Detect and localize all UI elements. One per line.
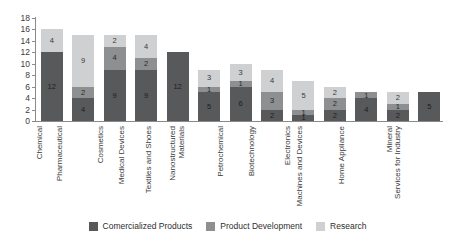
bar-segment[interactable]: 6 bbox=[230, 87, 252, 121]
bar-segment[interactable]: 4 bbox=[355, 98, 377, 121]
bar-segment[interactable]: 12 bbox=[41, 52, 63, 121]
bar-stack[interactable]: 513 bbox=[198, 70, 220, 121]
x-tick-label: Cosmetics bbox=[96, 126, 105, 163]
bar-segment[interactable]: 12 bbox=[167, 52, 189, 121]
bar-segment[interactable]: 3 bbox=[230, 64, 252, 81]
bar-segment[interactable]: 5 bbox=[292, 81, 314, 110]
bar-stack[interactable]: 234 bbox=[261, 70, 283, 121]
x-axis-category: Machines and Devices bbox=[319, 124, 350, 212]
bar-stack[interactable]: 924 bbox=[135, 35, 157, 121]
bar-stack[interactable]: 212 bbox=[387, 92, 409, 121]
bar-slot[interactable]: 41 bbox=[351, 18, 382, 121]
bar-segment[interactable]: 2 bbox=[261, 110, 283, 121]
bar-segment[interactable]: 9 bbox=[104, 70, 126, 122]
stacked-bar-chart: 024681012141618 124429942924125136132341… bbox=[0, 0, 455, 252]
bar-segment[interactable]: 5 bbox=[198, 92, 220, 121]
bar-slot[interactable]: 212 bbox=[382, 18, 413, 121]
bar-stack[interactable]: 124 bbox=[41, 29, 63, 121]
plot-area: 12442994292412513613234115222412125 bbox=[36, 18, 445, 121]
x-tick-label: Textiles and Shoes bbox=[144, 126, 153, 193]
y-tick-label: 0 bbox=[8, 117, 30, 126]
bar-stack[interactable]: 613 bbox=[230, 64, 252, 121]
y-tick-label: 10 bbox=[8, 60, 30, 69]
legend-label: Product Development bbox=[220, 222, 302, 231]
bar-segment[interactable]: 2 bbox=[387, 110, 409, 121]
bar-segment[interactable]: 4 bbox=[261, 70, 283, 93]
bar-stack[interactable]: 942 bbox=[104, 35, 126, 121]
bar-slot[interactable]: 5 bbox=[414, 18, 445, 121]
y-tick-label: 4 bbox=[8, 94, 30, 103]
x-tick-label: Petrochemical bbox=[215, 126, 224, 177]
chart-legend: Comercialized ProductsProduct Developmen… bbox=[0, 222, 455, 231]
x-axis-category: Services for Industry bbox=[414, 124, 445, 212]
legend-label: Comercialized Products bbox=[103, 222, 193, 231]
bar-series-group: 12442994292412513613234115222412125 bbox=[36, 18, 445, 121]
bar-segment[interactable]: 1 bbox=[292, 115, 314, 121]
bar-segment[interactable]: 2 bbox=[324, 110, 346, 121]
x-tick-label: Services for Industry bbox=[393, 126, 402, 199]
x-tick-label: Medical Devices bbox=[117, 126, 126, 184]
x-axis-line bbox=[35, 121, 443, 122]
y-tick-label: 18 bbox=[8, 14, 30, 23]
bar-segment[interactable]: 4 bbox=[72, 98, 94, 121]
y-tick-label: 2 bbox=[8, 106, 30, 115]
bar-slot[interactable]: 942 bbox=[99, 18, 130, 121]
y-tick-label: 6 bbox=[8, 83, 30, 92]
bar-segment[interactable]: 3 bbox=[198, 70, 220, 87]
x-tick-label: Machines and Devices bbox=[295, 126, 304, 206]
bar-slot[interactable]: 924 bbox=[130, 18, 161, 121]
bar-segment[interactable]: 4 bbox=[41, 29, 63, 52]
legend-label: Research bbox=[330, 222, 366, 231]
bar-slot[interactable]: 115 bbox=[288, 18, 319, 121]
bar-stack[interactable]: 12 bbox=[167, 52, 189, 121]
bar-slot[interactable]: 429 bbox=[67, 18, 98, 121]
legend-swatch-icon bbox=[206, 222, 215, 231]
bar-segment[interactable]: 4 bbox=[104, 47, 126, 70]
x-axis-category: Home Appliance bbox=[351, 124, 382, 212]
bar-segment[interactable]: 2 bbox=[387, 92, 409, 103]
x-tick-label: Nanostructured Materials bbox=[168, 126, 186, 208]
y-tick-label: 16 bbox=[8, 25, 30, 34]
bar-segment[interactable]: 2 bbox=[104, 35, 126, 46]
legend-swatch-icon bbox=[89, 222, 98, 231]
bar-slot[interactable]: 513 bbox=[193, 18, 224, 121]
bar-slot[interactable]: 124 bbox=[36, 18, 67, 121]
bar-segment[interactable]: 5 bbox=[418, 92, 440, 121]
y-tick-label: 12 bbox=[8, 48, 30, 57]
x-tick-label: Pharmaceutical bbox=[56, 126, 65, 181]
y-tick-label: 8 bbox=[8, 71, 30, 80]
legend-item[interactable]: Research bbox=[316, 222, 366, 231]
bar-stack[interactable]: 115 bbox=[292, 81, 314, 121]
legend-item[interactable]: Product Development bbox=[206, 222, 302, 231]
bar-slot[interactable]: 613 bbox=[225, 18, 256, 121]
bar-stack[interactable]: 41 bbox=[355, 92, 377, 121]
legend-swatch-icon bbox=[316, 222, 325, 231]
bar-stack[interactable]: 5 bbox=[418, 92, 440, 121]
y-tick-label: 14 bbox=[8, 37, 30, 46]
bar-segment[interactable]: 2 bbox=[72, 87, 94, 98]
bar-segment[interactable]: 3 bbox=[261, 92, 283, 109]
bar-slot[interactable]: 12 bbox=[162, 18, 193, 121]
bar-stack[interactable]: 222 bbox=[324, 87, 346, 121]
bar-segment[interactable]: 9 bbox=[72, 35, 94, 87]
legend-item[interactable]: Comercialized Products bbox=[89, 222, 193, 231]
x-axis-category: Pharmaceutical bbox=[67, 124, 98, 212]
x-tick-label: Biotechnology bbox=[247, 126, 256, 176]
bar-segment[interactable]: 2 bbox=[324, 98, 346, 109]
bar-segment[interactable]: 4 bbox=[135, 35, 157, 58]
x-axis-category-labels: ChemicalPharmaceuticalCosmeticsMedical D… bbox=[36, 124, 445, 212]
bar-slot[interactable]: 234 bbox=[256, 18, 287, 121]
bar-segment[interactable]: 2 bbox=[135, 58, 157, 69]
bar-slot[interactable]: 222 bbox=[319, 18, 350, 121]
x-tick-label: Home Appliance bbox=[337, 126, 346, 184]
x-tick-label: Electronics bbox=[284, 126, 293, 165]
x-tick-label: Chemical bbox=[35, 126, 44, 159]
bar-segment[interactable]: 2 bbox=[324, 87, 346, 98]
bar-stack[interactable]: 429 bbox=[72, 35, 94, 121]
bar-segment[interactable]: 9 bbox=[135, 70, 157, 122]
